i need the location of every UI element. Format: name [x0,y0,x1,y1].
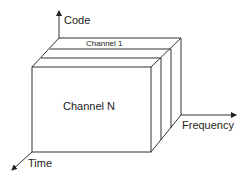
channel-box-diagram [0,0,247,172]
channel-n-label: Channel N [63,101,115,112]
channel-1-label: Channel 1 [86,40,122,48]
code-axis-label: Code [64,15,90,26]
frequency-axis-label: Frequency [182,120,234,131]
time-axis-label: Time [28,158,52,169]
